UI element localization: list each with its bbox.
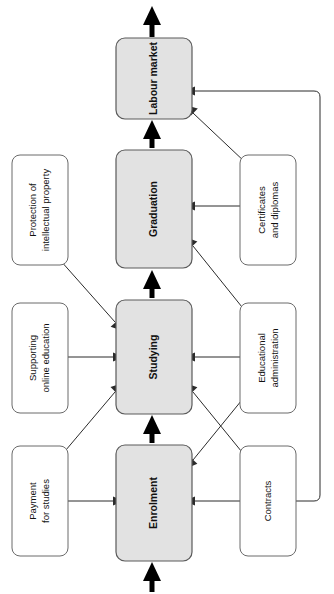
spine-arrow-graduation-to-labour-market-head (143, 120, 161, 139)
diagram-canvas: Labour market Graduation Studying Enrolm… (0, 0, 334, 594)
support-node-supporting-online-education[interactable]: Supporting online education (12, 303, 68, 413)
process-node-studying[interactable]: Studying (116, 300, 192, 414)
connector-educational-admin-to-enrolment (193, 395, 246, 460)
support-node-protection-of-intellectual-property[interactable]: Protection of intellectual property (12, 155, 68, 265)
spine-arrow-enrolment-to-studying-head (143, 415, 161, 434)
support-node-payment-for-studies-label-line1: Payment (27, 482, 38, 520)
spine-arrow-external-to-enrolment-head (143, 562, 161, 581)
support-node-educational-administration-label-line1: Educational (256, 333, 267, 383)
connector-certificates-to-labour-market (193, 113, 246, 163)
connector-contracts-to-labour-market-routed (192, 91, 320, 501)
support-node-contracts-label-line1: Contracts (262, 480, 273, 521)
support-node-certificates-and-diplomas-label-line2: and diplomas (269, 181, 280, 238)
connector-contracts-to-studying (193, 392, 246, 457)
support-connector-arrows (60, 87, 320, 506)
process-node-labour-market[interactable]: Labour market (116, 38, 192, 119)
process-node-graduation-label: Graduation (147, 181, 159, 237)
process-node-studying-label: Studying (147, 335, 159, 380)
spine-arrow-studying-to-graduation-head (143, 270, 161, 289)
process-node-enrolment-label: Enrolment (147, 477, 159, 529)
support-node-protection-of-intellectual-property-label-line1: Protection of (27, 183, 38, 237)
process-node-labour-market-label: Labour market (147, 42, 159, 115)
support-node-payment-for-studies-label-line2: for studies (40, 479, 51, 523)
support-node-supporting-online-education-label-line2: online education (40, 323, 51, 392)
support-node-certificates-and-diplomas[interactable]: Certificates and diplomas (240, 155, 296, 265)
support-node-educational-administration-label-line2: administration (269, 328, 280, 387)
connector-educational-admin-to-graduation (193, 246, 246, 312)
support-node-certificates-and-diplomas-label-line1: Certificates (256, 186, 267, 234)
process-node-graduation[interactable]: Graduation (116, 150, 192, 268)
support-node-payment-for-studies[interactable]: Payment for studies (12, 446, 68, 556)
support-node-contracts[interactable]: Contracts (240, 446, 296, 556)
support-node-educational-administration[interactable]: Educational administration (240, 303, 296, 413)
support-node-supporting-online-education-label-line1: Supporting (27, 335, 38, 381)
process-node-enrolment[interactable]: Enrolment (116, 445, 192, 561)
process-flow-diagram: Labour market Graduation Studying Enrolm… (0, 0, 334, 594)
spine-arrow-labour-market-to-external-head (143, 6, 161, 25)
support-node-protection-of-intellectual-property-label-line2: intellectual property (40, 169, 51, 252)
